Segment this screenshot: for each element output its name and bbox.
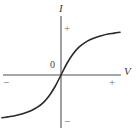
current-negative-sign: − (64, 116, 70, 127)
current-positive-sign: + (64, 23, 70, 34)
voltage-axis-label: V (124, 66, 131, 77)
voltage-positive-sign: + (109, 77, 115, 88)
plot-canvas (0, 0, 136, 132)
voltage-negative-sign: − (3, 77, 9, 88)
origin-label: 0 (50, 60, 55, 70)
current-axis-label: I (59, 3, 63, 14)
iv-characteristic-figure: I V + − − + 0 (0, 0, 136, 132)
